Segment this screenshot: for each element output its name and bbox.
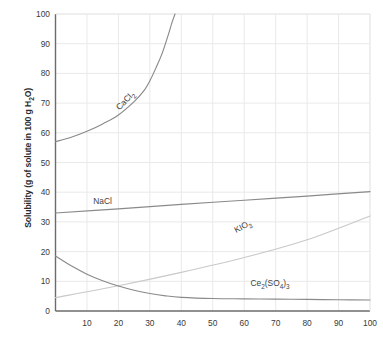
curve-label-ce2-so4-3: Ce2(SO4)3 [250,278,289,290]
curve-label-nacl: NaCl [93,196,112,206]
solubility-chart: Solubility (g of solute in 100 g H2O) 01… [0,0,383,349]
curve-cacl2 [56,14,176,142]
plot-area [0,0,383,349]
